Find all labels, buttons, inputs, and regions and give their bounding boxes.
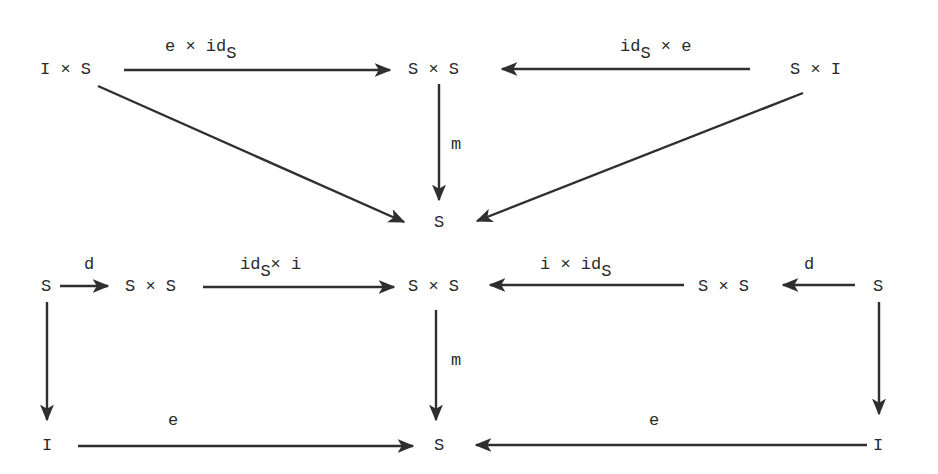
label-id-x-e-sub: S	[640, 44, 650, 63]
node-i-times-s: I × S	[40, 61, 91, 78]
label-d-right: d	[804, 256, 814, 273]
node-i-right: I	[873, 437, 883, 454]
label-id-x-e-main: id	[620, 37, 640, 56]
arrow-diag-right	[477, 93, 803, 221]
label-id-x-i-tail: × i	[271, 255, 302, 274]
label-m-top: m	[451, 136, 461, 153]
label-e-right: e	[649, 412, 659, 429]
label-id-x-i: idS× i	[240, 256, 301, 280]
label-id-x-e-tail: × e	[651, 37, 692, 56]
node-s-times-s-right: S × S	[698, 278, 749, 295]
node-s-times-i: S × I	[790, 61, 841, 78]
node-s-times-s-center: S × S	[408, 278, 459, 295]
label-m-bottom: m	[451, 352, 461, 369]
node-s-right: S	[873, 278, 883, 295]
node-s-top-center: S	[434, 214, 444, 231]
label-e-x-id-sub: S	[226, 44, 236, 63]
label-e-x-id-main: e × id	[165, 37, 226, 56]
node-s-bottom: S	[434, 437, 444, 454]
label-id-x-i-sub: S	[260, 262, 270, 281]
node-s-left: S	[41, 278, 51, 295]
commutative-diagram: I × S S × S S × I S e × idS idS × e m S …	[0, 0, 938, 474]
label-e-x-id: e × idS	[165, 38, 236, 62]
label-i-x-id-sub: S	[601, 262, 611, 281]
label-i-x-id-main: i × id	[540, 255, 601, 274]
node-i-left: I	[42, 437, 52, 454]
label-d-left: d	[84, 256, 94, 273]
label-i-x-id: i × idS	[540, 256, 611, 280]
node-s-times-s-left: S × S	[125, 278, 176, 295]
label-id-x-e: idS × e	[620, 38, 691, 62]
label-e-left: e	[168, 412, 178, 429]
arrow-diag-left	[98, 86, 404, 222]
label-id-x-i-main: id	[240, 255, 260, 274]
node-s-times-s-top: S × S	[408, 61, 459, 78]
